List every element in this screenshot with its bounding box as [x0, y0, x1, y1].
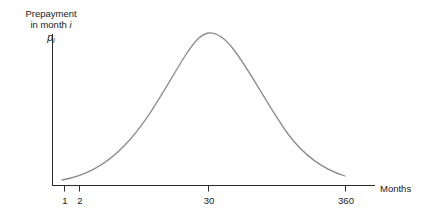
y-axis-symbol: pi — [22, 32, 80, 46]
x-tick-label-2: 2 — [74, 195, 86, 206]
y-axis-symbol-subscript: i — [53, 36, 55, 45]
y-axis-caption-line1: Prepayment — [22, 8, 80, 19]
y-axis-caption-line2: in month i — [22, 19, 80, 30]
prepayment-curve-figure: Prepayment in month i pi 1 2 30 360 Mont… — [0, 0, 432, 217]
y-axis-caption-line2-prefix: in month — [30, 19, 69, 30]
prepayment-curve-line — [62, 33, 345, 180]
y-axis-caption-line2-italic: i — [69, 19, 71, 30]
x-tick-label-360: 360 — [334, 195, 358, 206]
x-tick-label-30: 30 — [200, 195, 218, 206]
x-tick-label-1: 1 — [59, 195, 71, 206]
x-axis-title: Months — [380, 183, 411, 194]
y-axis-caption: Prepayment in month i pi — [22, 8, 80, 46]
